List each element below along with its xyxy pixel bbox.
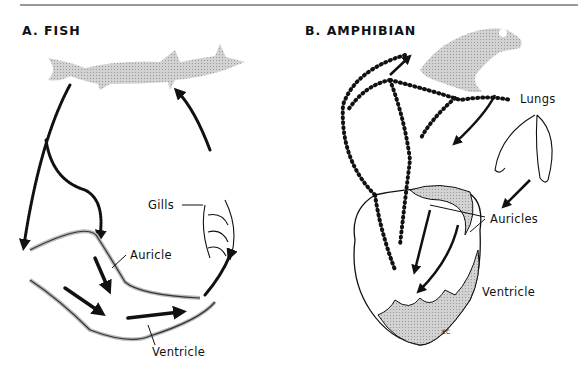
artist-signature: EC xyxy=(442,328,451,335)
fish-silhouette-icon xyxy=(48,44,245,90)
fish-ventricle-label: Ventricle xyxy=(152,345,205,359)
amphibian-arrows xyxy=(390,58,530,290)
amphibian-circulation-paths xyxy=(343,55,510,270)
amphibian-ventricle-label: Ventricle xyxy=(482,285,535,299)
panel-a-title: A. FISH xyxy=(22,23,81,38)
frog-silhouette-icon xyxy=(420,28,522,92)
gills-label: Gills xyxy=(148,198,174,212)
auricles-label: Auricles xyxy=(490,212,538,226)
fish-heart xyxy=(30,231,215,339)
gills-icon xyxy=(203,200,234,260)
panel-b-title: B. AMPHIBIAN xyxy=(305,23,416,38)
diagram-canvas xyxy=(0,0,578,385)
lungs-icon xyxy=(495,115,552,182)
auricles-leader-line-2 xyxy=(470,219,485,232)
lungs-label: Lungs xyxy=(520,92,556,106)
auricle-label: Auricle xyxy=(130,248,172,262)
